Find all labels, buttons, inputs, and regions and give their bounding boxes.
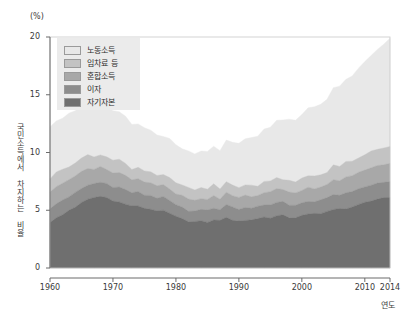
y-tick-label: 15 (24, 90, 40, 99)
legend-label: 혼합소득 (87, 72, 115, 81)
legend-label: 자기자본 (87, 98, 115, 107)
legend-swatch (64, 98, 81, 107)
legend-item[interactable]: 자기자본 (64, 97, 115, 108)
legend-item[interactable]: 혼합소득 (64, 71, 115, 82)
x-tick-label: 1990 (219, 283, 259, 292)
legend: 노동소득임차료 등혼합소득이자자기자본 (57, 38, 140, 110)
x-tick-label: 2014 (370, 283, 410, 292)
legend-label: 노동소득 (87, 46, 115, 55)
x-tick-label: 1970 (93, 283, 133, 292)
y-tick-label: 20 (24, 32, 40, 41)
y-tick-label: 0 (24, 263, 40, 272)
legend-swatch (64, 85, 81, 94)
x-tick-label: 2000 (282, 283, 322, 292)
legend-item[interactable]: 노동소득 (64, 45, 115, 56)
y-tick-label: 5 (24, 205, 40, 214)
x-tick-label: 1960 (30, 283, 70, 292)
legend-item[interactable]: 이자 (64, 84, 101, 95)
legend-item[interactable]: 임차료 등 (64, 58, 118, 69)
legend-swatch (64, 59, 81, 68)
legend-label: 이자 (87, 85, 101, 94)
legend-swatch (64, 46, 81, 55)
legend-label: 임차료 등 (87, 59, 118, 68)
y-tick-label: 10 (24, 148, 40, 157)
x-tick-label: 1980 (156, 283, 196, 292)
area-chart: (%) 국민소득에서 차지하는 비율 연도 노동소득임차료 등혼합소득이자자기자… (0, 0, 414, 325)
legend-swatch (64, 72, 81, 81)
